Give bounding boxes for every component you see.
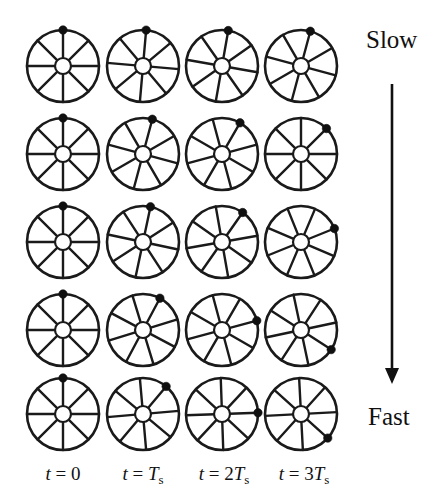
wheel-marker-dot bbox=[148, 115, 156, 123]
wheel bbox=[27, 374, 99, 450]
wheel-marker-dot bbox=[306, 27, 314, 35]
wheel bbox=[265, 27, 337, 102]
wheel bbox=[265, 118, 337, 190]
wheel-hub bbox=[214, 146, 230, 162]
wheel-marker-dot bbox=[59, 26, 67, 34]
wagon-wheel-figure: SlowFast t = 0t = Tst = 2Tst = 3Ts bbox=[0, 0, 444, 504]
wheel-marker-dot bbox=[156, 294, 164, 302]
wheel-hub bbox=[135, 322, 151, 338]
wheel-marker-dot bbox=[142, 26, 150, 34]
time-label-t3: t = 3Ts bbox=[279, 463, 330, 487]
wheel bbox=[186, 378, 262, 450]
wheel bbox=[27, 114, 99, 190]
wheel bbox=[107, 294, 179, 366]
wheel-hub bbox=[55, 58, 71, 74]
wheel bbox=[107, 115, 179, 190]
wheel bbox=[107, 26, 179, 102]
wheel bbox=[186, 294, 261, 366]
wheel-hub bbox=[135, 406, 151, 422]
wheel-hub bbox=[293, 58, 309, 74]
wheel-marker-dot bbox=[59, 374, 67, 382]
wheel-hub bbox=[55, 406, 71, 422]
wheel-marker-dot bbox=[238, 208, 246, 216]
wheel-hub bbox=[214, 322, 230, 338]
time-label-t1: t = Ts bbox=[122, 463, 163, 487]
wheel-marker-dot bbox=[330, 224, 338, 232]
wheel-hub bbox=[55, 146, 71, 162]
wheel-marker-dot bbox=[146, 203, 154, 211]
time-labels: t = 0t = Tst = 2Tst = 3Ts bbox=[46, 463, 330, 487]
wheel bbox=[107, 203, 179, 278]
slow-label: Slow bbox=[366, 26, 417, 53]
time-label-t0: t = 0 bbox=[46, 463, 81, 484]
wheel-hub bbox=[55, 234, 71, 250]
wheel-marker-dot bbox=[162, 382, 170, 390]
wheel bbox=[265, 206, 339, 278]
wheel bbox=[27, 290, 99, 366]
wheel-hub bbox=[135, 58, 151, 74]
wheel-hub bbox=[55, 322, 71, 338]
speed-axis: SlowFast bbox=[366, 26, 417, 430]
wheel-hub bbox=[135, 146, 151, 162]
wheel-hub bbox=[214, 406, 230, 422]
time-label-t2: t = 2Ts bbox=[199, 463, 250, 487]
wheel bbox=[27, 202, 99, 278]
wheel-hub bbox=[293, 322, 309, 338]
wheel-marker-dot bbox=[254, 409, 262, 417]
wheel-marker-dot bbox=[59, 290, 67, 298]
wheel-marker-dot bbox=[59, 114, 67, 122]
wheel bbox=[265, 378, 337, 450]
wheel bbox=[186, 26, 258, 102]
wheel-hub bbox=[293, 146, 309, 162]
wheel-marker-dot bbox=[253, 316, 261, 324]
fast-label: Fast bbox=[368, 403, 410, 430]
wheel-grid-canvas: SlowFast t = 0t = Tst = 2Tst = 3Ts bbox=[0, 0, 444, 504]
wheel-marker-dot bbox=[236, 119, 244, 127]
wheel-marker-dot bbox=[324, 434, 332, 442]
wheel bbox=[107, 378, 179, 450]
wheel-hub bbox=[214, 58, 230, 74]
wheel-hub bbox=[135, 234, 151, 250]
wheel-hub bbox=[293, 234, 309, 250]
wheel-hub bbox=[214, 234, 230, 250]
wheels-layer bbox=[27, 26, 339, 450]
wheel-marker-dot bbox=[322, 124, 330, 132]
wheel bbox=[27, 26, 99, 102]
wheel bbox=[186, 118, 258, 190]
wheel-marker-dot bbox=[327, 345, 335, 353]
speed-arrow-head bbox=[385, 368, 399, 384]
wheel bbox=[186, 206, 258, 278]
wheel-marker-dot bbox=[59, 202, 67, 210]
wheel-hub bbox=[293, 406, 309, 422]
wheel bbox=[265, 294, 337, 366]
wheel-marker-dot bbox=[224, 26, 232, 34]
